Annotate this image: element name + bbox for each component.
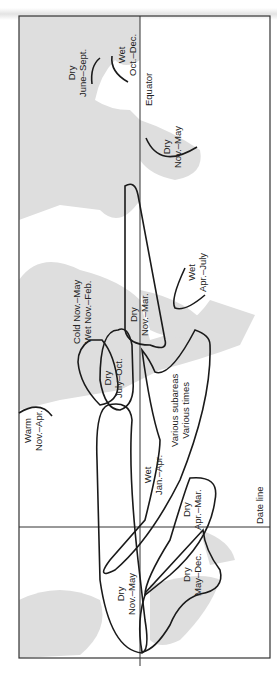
date-line-label: Date line — [255, 487, 266, 525]
zone-months: Wet Nov.–Feb. — [83, 280, 94, 344]
zone-season: Dry — [103, 358, 114, 398]
zone-months: Apr.–July — [198, 253, 209, 292]
zone-label-wet-oct-dec: WetOct.–Dec. — [117, 34, 138, 76]
label-date-line: Date line — [255, 487, 266, 525]
zone-months: Nov.–Apr. — [34, 410, 45, 451]
zone-label-dry-june-sept: DryJune–Sept. — [67, 49, 88, 97]
zone-season: Dry — [116, 573, 127, 615]
zone-label-dry-nov-may-africa: DryNov.–May — [162, 126, 183, 168]
zone-label-dry-apr-mar: DryApr.–Mar. — [182, 489, 203, 530]
zone-season: Wet — [143, 455, 154, 495]
zone-months: July–Oct. — [114, 358, 125, 398]
zone-season: Dry — [129, 293, 140, 336]
zone-months: Oct.–Dec. — [128, 34, 139, 76]
zone-label-cold-nov-may: Cold Nov.–MayWet Nov.–Feb. — [72, 280, 93, 344]
zone-months: Nov.–Mar. — [140, 293, 151, 336]
map-canvas — [0, 0, 277, 676]
zone-label-various: Various subareasVarious times — [170, 374, 191, 447]
zone-label-dry-nov-mar: DryNov.–Mar. — [129, 293, 150, 336]
zone-months: Various times — [181, 374, 192, 447]
zone-months: Apr.–Mar. — [193, 489, 204, 530]
zone-season: Various subareas — [170, 374, 181, 447]
zone-months: Nov.–May — [173, 126, 184, 168]
zone-season: Dry — [182, 489, 193, 530]
zone-season: Dry — [182, 553, 193, 596]
zone-months: Jan.–Apr. — [154, 455, 165, 495]
zone-label-warm-nov-apr: WarmNov.–Apr. — [23, 410, 44, 451]
zone-label-dry-may-dec: DryMay–Dec. — [182, 553, 203, 596]
zone-months: Nov.–May — [127, 573, 138, 615]
zone-months: May–Dec. — [193, 553, 204, 596]
zone-big-pacific — [97, 404, 147, 653]
zone-label-wet-jan-apr: WetJan.–Apr. — [143, 455, 164, 495]
zone-season: Dry — [162, 126, 173, 168]
zone-months: June–Sept. — [78, 49, 89, 97]
zone-season: Warm — [23, 410, 34, 451]
equator-label: Equator — [144, 73, 155, 106]
zone-season: Wet — [187, 253, 198, 292]
zone-season: Wet — [117, 34, 128, 76]
zone-label-dry-nov-may-pacific: DryNov.–May — [116, 573, 137, 615]
zone-season: Cold Nov.–May — [72, 280, 83, 344]
land-masses — [19, 16, 255, 658]
zone-season: Dry — [67, 49, 78, 97]
label-equator: Equator — [144, 73, 155, 106]
zone-label-wet-apr-july: WetApr.–July — [187, 253, 208, 292]
zone-label-dry-july-oct: DryJuly–Oct. — [103, 358, 124, 398]
